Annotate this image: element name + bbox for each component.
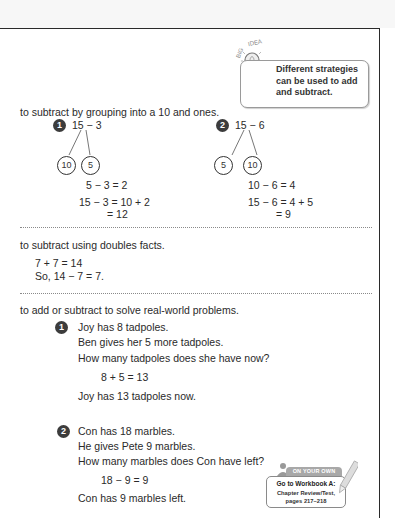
big-idea-line-2: can be used to add [276,76,358,88]
word-problem-line: Ben gives her 5 more tadpoles. [78,336,223,349]
on-your-own-tab: ON YOUR OWN [286,467,342,476]
solution-step: = 9 [276,208,291,221]
doubles-fact-line: So, 14 − 7 = 7. [35,270,104,283]
solution-step: 10 − 6 = 4 [248,179,295,192]
number-bond-part: 10 [243,156,262,175]
on-your-own-box: Go to Workbook A: Chapter Review/Test, p… [266,476,346,508]
section3-heading: to add or subtract to solve real-world p… [20,304,239,317]
problem-number-badge: 1 [53,119,66,132]
big-idea-line-1: Different strategies [276,64,358,76]
doubles-fact-line: 7 + 7 = 14 [35,257,82,270]
word-problem-line: How many marbles does Con have left? [78,455,264,468]
workbook-pages: pages 217–218 [267,497,345,505]
problem-expression: 15 − 6 [235,119,265,132]
word-problem-line: Joy has 8 tadpoles. [78,321,168,334]
section2-heading: to subtract using doubles facts. [20,239,165,252]
word-problem-equation: 18 − 9 = 9 [101,474,148,487]
pencil-icon [338,458,358,498]
word-problem-equation: 8 + 5 = 13 [101,371,148,384]
section1-heading: to subtract by grouping into a 10 and on… [20,106,219,119]
top-margin-strip [0,0,395,28]
solution-step: 5 − 3 = 2 [86,179,127,192]
word-problem-answer: Con has 9 marbles left. [78,492,186,505]
problem-number-badge: 2 [57,425,70,438]
word-problem-line: Con has 18 marbles. [78,425,175,438]
word-problem-line: He gives Pete 9 marbles. [78,440,195,453]
section-divider [20,227,372,228]
word-problem-line: How many tadpoles does she have now? [78,352,269,365]
workbook-chapter: Chapter Review/Test, [267,489,345,497]
problem-expression: 15 − 3 [72,119,102,132]
big-idea-line-3: and subtract. [276,87,358,99]
solution-step: = 12 [107,208,128,221]
section-divider [20,293,372,294]
problem-number-badge: 2 [216,119,229,132]
svg-text:IDEA: IDEA [248,38,263,47]
number-bond-part: 5 [81,156,100,175]
big-idea-text: Different strategies can be used to add … [276,64,358,99]
problem-number-badge: 1 [55,321,68,334]
workbook-reference: Go to Workbook A: [267,480,345,489]
number-bond-part: 10 [57,156,76,175]
number-bond-part: 5 [214,156,233,175]
word-problem-answer: Joy has 13 tadpoles now. [78,390,196,403]
